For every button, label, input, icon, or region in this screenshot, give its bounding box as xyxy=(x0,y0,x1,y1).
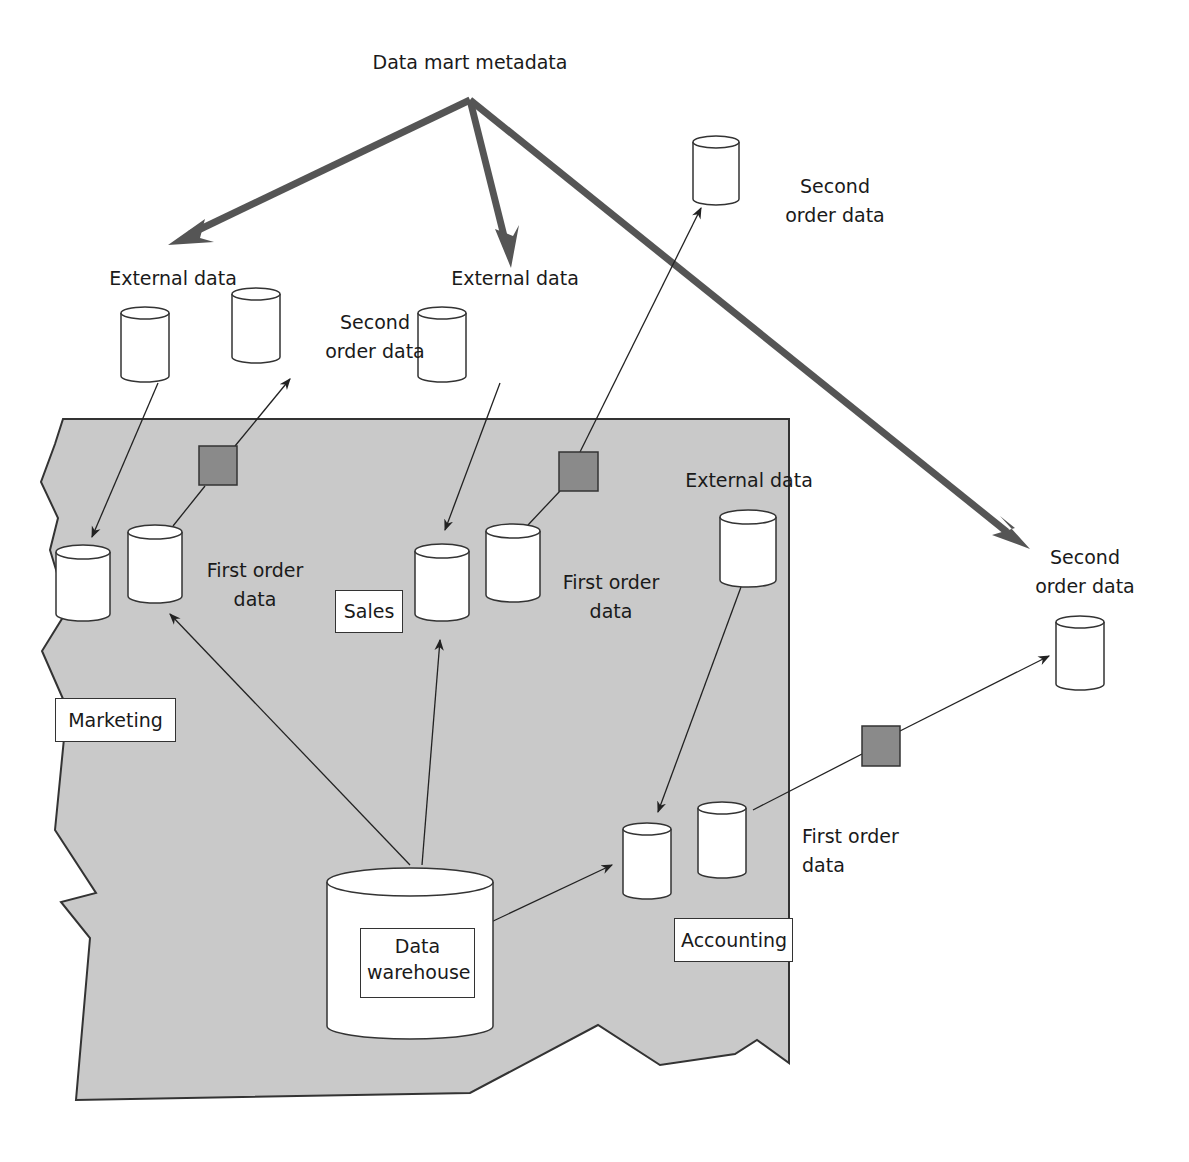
second-order-label-marketing-2: order data xyxy=(300,337,450,365)
department-accounting: Accounting xyxy=(674,918,793,962)
cylinder-icon-accounting-mart xyxy=(623,823,671,899)
department-marketing: Marketing xyxy=(55,698,176,742)
first-order-label-marketing-1: First order xyxy=(190,556,320,584)
first-order-label-sales-2: data xyxy=(546,597,676,625)
cylinder-icon-marketing-first-order xyxy=(128,525,182,603)
second-order-label-accounting-2: order data xyxy=(1010,572,1160,600)
cylinder-icon-accounting-second-order xyxy=(1056,616,1104,690)
cylinder-icon-marketing-mart xyxy=(56,545,110,621)
cylinder-icon-accounting-first-order xyxy=(698,802,746,878)
data-warehouse-label: Data warehouse xyxy=(360,928,475,998)
metadata-label: Data mart metadata xyxy=(360,48,580,76)
cylinder-icon-marketing-external xyxy=(121,307,169,382)
second-order-label-sales-1: Second xyxy=(760,172,910,200)
external-data-label-sales: External data xyxy=(430,264,600,292)
process-box-marketing xyxy=(199,446,237,485)
second-order-label-sales-2: order data xyxy=(760,201,910,229)
second-order-label-accounting-1: Second xyxy=(1010,543,1160,571)
second-order-label-marketing-1: Second xyxy=(300,308,450,336)
cylinder-icon-sales-first-order xyxy=(486,524,540,602)
external-data-label-marketing: External data xyxy=(88,264,258,292)
first-order-label-accounting-1: First order xyxy=(802,822,932,850)
first-order-label-accounting-2: data xyxy=(802,851,932,879)
cylinder-icon-accounting-external xyxy=(720,510,776,587)
process-box-accounting xyxy=(862,726,900,766)
data-warehouse-line2: warehouse xyxy=(367,959,468,985)
department-sales: Sales xyxy=(335,590,403,633)
cylinder-icon-sales-mart xyxy=(415,544,469,621)
data-warehouse-line1: Data xyxy=(367,933,468,959)
first-order-label-sales-1: First order xyxy=(546,568,676,596)
cylinder-icon-sales-second-order xyxy=(693,136,739,205)
cylinder-icon-marketing-second-order xyxy=(232,288,280,363)
process-box-sales xyxy=(559,452,598,491)
external-data-label-accounting: External data xyxy=(664,466,834,494)
first-order-label-marketing-2: data xyxy=(190,585,320,613)
